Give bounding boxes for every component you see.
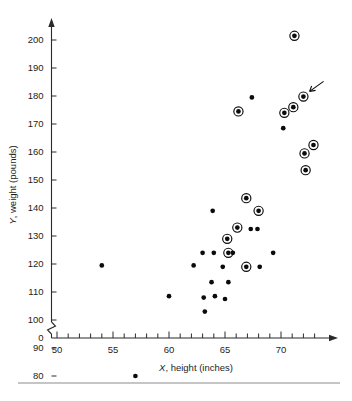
x-tick-label: 50: [52, 344, 63, 355]
data-point: [303, 168, 308, 173]
y-axis-arrowhead: [48, 18, 54, 27]
y-tick-label: 160: [28, 146, 44, 157]
y-tick-label: 190: [28, 62, 44, 73]
y-tick-label: 180: [28, 90, 44, 101]
data-point: [99, 263, 104, 268]
y-tick-label: 170: [28, 118, 44, 129]
data-point: [235, 225, 240, 230]
x-axis-arrowhead: [329, 335, 338, 341]
data-point: [133, 374, 138, 379]
data-point: [256, 208, 261, 213]
data-point: [250, 95, 255, 100]
data-point: [281, 126, 286, 131]
y-axis-title: Y, weight (pounds): [7, 145, 18, 224]
x-tick-label: 70: [276, 344, 287, 355]
series-plain-points: [99, 95, 285, 378]
data-point: [191, 263, 196, 268]
y-tick-label: 90: [33, 342, 44, 353]
data-point: [202, 309, 207, 314]
x-tick-label: 55: [108, 344, 119, 355]
data-point: [200, 250, 205, 255]
data-point: [210, 208, 215, 213]
data-point: [311, 143, 316, 148]
y-tick-label: 100: [28, 314, 44, 325]
data-point: [248, 227, 253, 232]
data-point: [244, 196, 249, 201]
y-tick-label: 120: [28, 258, 44, 269]
data-point: [213, 294, 218, 299]
data-point: [220, 264, 225, 269]
data-point: [282, 110, 287, 115]
scatter-plot-figure: 8090100110120130140150160170180190200050…: [0, 0, 352, 401]
y-tick-label: 150: [28, 174, 44, 185]
data-point: [255, 227, 260, 232]
data-point: [236, 109, 241, 114]
y-tick-label: 200: [28, 34, 44, 45]
x-tick-label: 65: [220, 344, 231, 355]
x-axis-title: X, height (inches): [158, 362, 233, 373]
scatter-plot-canvas: 8090100110120130140150160170180190200050…: [0, 0, 352, 401]
data-point: [226, 250, 231, 255]
x-tick-label: 60: [164, 344, 175, 355]
arrow-annotation: [310, 81, 324, 91]
data-point: [211, 250, 216, 255]
axis-break-zigzag: [48, 322, 56, 334]
y-tick-label: 140: [28, 202, 44, 213]
data-point: [301, 94, 306, 99]
y-tick-label: 110: [28, 286, 43, 297]
data-point: [271, 250, 276, 255]
data-point: [302, 151, 307, 156]
data-point: [167, 294, 172, 299]
data-point: [292, 33, 297, 38]
y-tick-label-zero: 0: [38, 332, 43, 343]
data-point: [225, 236, 230, 241]
data-point: [201, 295, 206, 300]
data-point: [209, 280, 214, 285]
data-point: [223, 297, 228, 302]
data-point: [291, 105, 296, 110]
series-circled-points: [223, 31, 318, 271]
data-point: [257, 264, 262, 269]
y-tick-label: 80: [33, 370, 44, 381]
data-point: [226, 280, 231, 285]
data-point: [244, 264, 249, 269]
y-tick-label: 130: [28, 230, 44, 241]
